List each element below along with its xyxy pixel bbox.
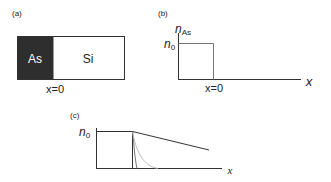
long-time-profile — [133, 132, 210, 151]
panel-c: (c) n0 x — [70, 111, 233, 176]
n0-label-b: n0 — [164, 37, 176, 52]
panel-b-label: (b) — [158, 9, 168, 18]
y-axis-label-b: nAs — [175, 22, 191, 37]
x-axis-label-c: x — [227, 164, 233, 176]
si-label: Si — [83, 52, 94, 66]
diffusion-diagram: (a) As Si x=0 (b) nAs n0 x=0 x (c) n0 x — [0, 0, 331, 182]
panel-c-label: (c) — [70, 111, 80, 120]
panel-a-label: (a) — [12, 9, 22, 18]
step-profile — [179, 44, 214, 80]
as-label: As — [28, 52, 42, 66]
interface-label-a: x=0 — [46, 83, 64, 95]
short-time-profile — [133, 132, 138, 169]
n0-label-c: n0 — [79, 125, 91, 140]
interface-label-b: x=0 — [205, 82, 223, 94]
x-axis-label-b: x — [305, 74, 313, 89]
panel-b: (b) nAs n0 x=0 x — [158, 9, 313, 94]
panel-a: (a) As Si x=0 — [12, 9, 125, 95]
